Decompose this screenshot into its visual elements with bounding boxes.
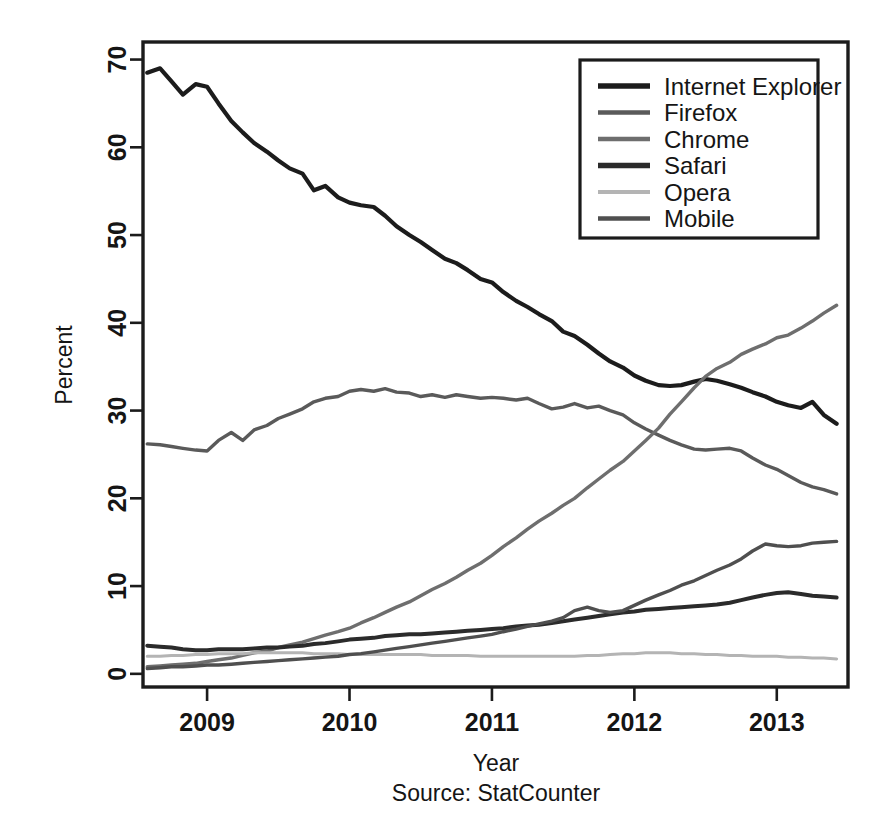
y-tick-label: 70: [103, 46, 131, 74]
y-tick-label: 40: [103, 309, 131, 337]
y-tick-label: 20: [103, 484, 131, 512]
y-tick-label: 10: [103, 572, 131, 600]
x-axis-title: Year: [473, 750, 520, 776]
x-tick-label: 2012: [607, 708, 663, 736]
legend-label-internet-explorer: Internet Explorer: [664, 73, 841, 100]
legend-label-opera: Opera: [664, 179, 731, 206]
y-tick-label: 30: [103, 397, 131, 425]
x-tick-label: 2011: [465, 708, 519, 736]
line-chart: 010203040506070 20092010201120122013 Per…: [0, 0, 887, 839]
x-tick-label: 2013: [749, 708, 805, 736]
legend-label-safari: Safari: [664, 152, 727, 179]
x-tick-label: 2009: [179, 708, 235, 736]
x-tick-label: 2010: [322, 708, 378, 736]
browser-market-share-figure: 010203040506070 20092010201120122013 Per…: [0, 0, 887, 839]
legend-label-firefox: Firefox: [664, 99, 737, 126]
y-tick-label: 50: [103, 221, 131, 249]
y-axis-title: Percent: [51, 325, 77, 405]
source-note: Source: StatCounter: [392, 780, 601, 806]
y-tick-label: 0: [103, 667, 131, 681]
legend-label-mobile: Mobile: [664, 205, 735, 232]
legend-label-chrome: Chrome: [664, 126, 749, 153]
y-tick-label: 60: [103, 133, 131, 161]
